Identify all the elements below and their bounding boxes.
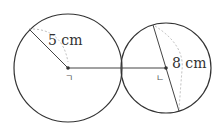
left-radius-label: 5 cm <box>48 32 82 48</box>
right-center-dot <box>164 66 168 70</box>
left-center-label: ㄱ <box>65 71 73 84</box>
left-center-dot <box>66 66 70 70</box>
two-circles-diagram: 5 cm ㄱ 8 cm ㄴ <box>0 0 215 126</box>
right-center-label: ㄴ <box>156 71 164 84</box>
right-diameter-label: 8 cm <box>172 55 206 71</box>
